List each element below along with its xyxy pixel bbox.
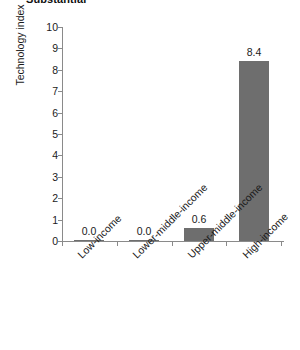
y-axis-title: Technology index [14,0,26,100]
x-axis-tick [62,241,63,246]
y-axis-tick-label-wrap: 10 [36,22,58,33]
y-axis-tick-label: 2 [36,193,58,204]
y-axis-tick-label: 1 [36,215,58,226]
y-axis-tick-label-wrap: 5 [36,129,58,140]
y-axis-tick-label: 5 [36,129,58,140]
y-axis-tick-label: 3 [36,172,58,183]
y-axis-tick-label-wrap: 1 [36,215,58,226]
x-axis-tick [172,241,173,246]
bar-value-label: 8.4 [234,47,274,58]
y-axis-tick-label-wrap: 0 [36,236,58,247]
y-axis-tick-label: 8 [36,65,58,76]
chart-canvas: Substantial Technology index 01234567891… [0,0,300,350]
chart-title: Substantial [26,0,86,5]
y-axis-tick-label-wrap: 3 [36,172,58,183]
y-axis-tick-label: 4 [36,150,58,161]
y-axis-tick-label-wrap: 7 [36,86,58,97]
y-axis-tick-label: 7 [36,86,58,97]
bar [239,61,269,241]
y-axis-tick-label-wrap: 9 [36,43,58,54]
y-axis-tick-label: 6 [36,108,58,119]
y-axis-tick-label: 10 [36,22,58,33]
y-axis-tick-label-wrap: 6 [36,108,58,119]
x-axis-tick [117,241,118,246]
x-axis-tick [226,241,227,246]
y-axis-tick-label: 0 [36,236,58,247]
y-axis-tick-label-wrap: 8 [36,65,58,76]
y-axis-tick-label: 9 [36,43,58,54]
y-axis-tick-label-wrap: 2 [36,193,58,204]
x-axis-tick [281,241,282,246]
y-axis-tick-label-wrap: 4 [36,150,58,161]
